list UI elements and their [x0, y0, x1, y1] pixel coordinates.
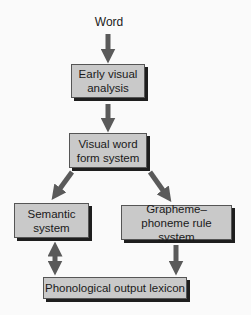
node-label: Early visual analysis: [72, 67, 144, 95]
node-label: Semantic system: [15, 207, 88, 235]
node-label: Grapheme–phoneme rule system: [122, 202, 231, 244]
arrow-vwf-to-semantic: [56, 172, 72, 194]
node-label: Phonological output lexicon: [45, 281, 185, 295]
node-grapheme-phoneme-rule-system: Grapheme–phoneme rule system: [121, 205, 232, 240]
node-semantic-system: Semantic system: [14, 203, 89, 238]
node-visual-word-form-system: Visual word form system: [69, 133, 147, 168]
node-early-visual-analysis: Early visual analysis: [71, 64, 145, 98]
node-phonological-output-lexicon: Phonological output lexicon: [43, 277, 187, 299]
input-word-label: Word: [92, 15, 126, 29]
arrow-vwf-to-grapheme: [150, 172, 167, 196]
node-label: Visual word form system: [70, 137, 146, 165]
